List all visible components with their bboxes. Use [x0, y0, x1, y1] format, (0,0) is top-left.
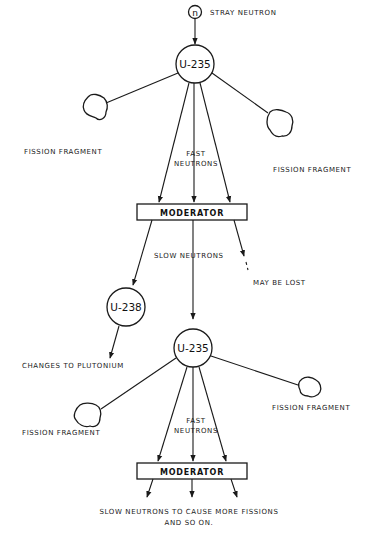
lost-neutron-arrow — [234, 220, 244, 256]
changes-to-plutonium-label: CHANGES TO PLUTONIUM — [22, 362, 124, 370]
u238-node: U-238 — [107, 288, 145, 326]
outgoing-slow-neutron-arrow-1 — [147, 479, 153, 497]
u235-bottom-node: U-235 — [174, 329, 212, 367]
fission-fragment-top-left-label: FISSION FRAGMENT — [24, 148, 102, 156]
u235-bottom-label: U-235 — [177, 342, 209, 354]
u235-top-label: U-235 — [179, 58, 211, 70]
fast-neutrons-top-line1: FAST — [186, 150, 205, 158]
may-be-lost-label: MAY BE LOST — [253, 279, 306, 287]
fission-fragment-bottom-right-blob — [299, 377, 321, 397]
stray-neutron-node: n — [189, 6, 202, 19]
fission-fragment-top-left-blob — [83, 94, 107, 119]
footer-line2: AND SO ON. — [165, 519, 214, 527]
outgoing-slow-neutron-arrow-3 — [231, 479, 237, 497]
fast-neutrons-bottom-line2: NEUTRONS — [174, 427, 218, 435]
fast-neutron-arrow-bottom-3 — [199, 367, 226, 461]
fast-neutrons-bottom-line1: FAST — [186, 417, 205, 425]
edge-to-fragment-bottom-right — [211, 356, 301, 386]
chain-reaction-diagram: n STRAY NEUTRON U-235 FISSION FRAGMENT F… — [0, 0, 378, 549]
fast-neutron-arrow-top-1 — [159, 83, 189, 202]
neutron-symbol: n — [192, 8, 198, 18]
fast-neutron-arrow-bottom-1 — [158, 367, 187, 461]
fast-neutron-arrow-top-3 — [200, 83, 230, 202]
fission-fragment-bottom-left-label: FISSION FRAGMENT — [22, 429, 100, 437]
moderator-bottom-node: MODERATOR — [137, 463, 247, 479]
moderator-top-node: MODERATOR — [137, 204, 247, 220]
moderator-top-label: MODERATOR — [160, 209, 224, 218]
fast-neutrons-top-line2: NEUTRONS — [174, 160, 218, 168]
fission-fragment-top-right-label: FISSION FRAGMENT — [273, 166, 351, 174]
edge-to-fragment-top-left — [106, 73, 178, 103]
stray-neutron-label: STRAY NEUTRON — [210, 9, 277, 17]
u238-label: U-238 — [110, 301, 142, 313]
lost-neutron-dashed — [246, 262, 248, 270]
moderator-bottom-label: MODERATOR — [160, 468, 224, 477]
u235-top-node: U-235 — [176, 45, 214, 83]
fission-fragment-bottom-left-blob — [74, 403, 100, 426]
footer-line1: SLOW NEUTRONS TO CAUSE MORE FISSIONS — [100, 508, 279, 516]
fission-fragment-top-right-blob — [267, 110, 293, 137]
edge-to-fragment-top-right — [212, 73, 268, 113]
slow-neutron-to-u238-arrow — [133, 220, 152, 285]
u238-to-plutonium-arrow — [110, 326, 119, 358]
slow-neutrons-label: SLOW NEUTRONS — [154, 252, 224, 260]
fission-fragment-bottom-right-label: FISSION FRAGMENT — [272, 404, 350, 412]
